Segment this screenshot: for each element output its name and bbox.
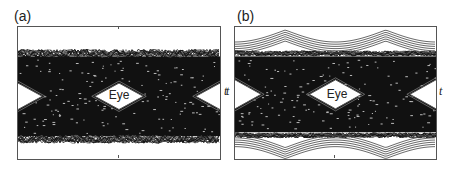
eye-diagram-a: Eye xyxy=(17,26,221,160)
panel-b-label: (b) xyxy=(237,8,254,24)
tick-a-bottom xyxy=(118,155,119,158)
t-axis-label-b-right: t xyxy=(439,84,442,99)
tick-a-top xyxy=(118,26,119,29)
tick-b-bottom xyxy=(334,155,335,158)
panel-a-label: (a) xyxy=(14,8,31,24)
t-axis-label-b-left: t xyxy=(226,84,229,99)
eye-diagram-b: Eye xyxy=(234,26,437,160)
eye-label-a: Eye xyxy=(109,88,130,102)
eye-label-b: Eye xyxy=(327,87,348,101)
